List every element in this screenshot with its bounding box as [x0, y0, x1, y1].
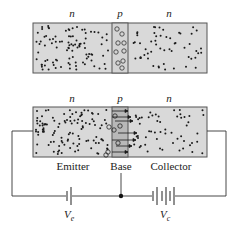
electron-dot — [53, 141, 55, 143]
transistor-diagram: n p n n p n Emitter Base Collector — [0, 0, 238, 225]
collector-label: Collector — [151, 160, 192, 172]
electron-dot — [39, 120, 41, 122]
electron-dot — [154, 132, 156, 134]
electron-dot — [144, 144, 146, 146]
electron-dot — [52, 62, 54, 64]
electron-dot — [154, 26, 156, 28]
electron-dot — [72, 45, 74, 47]
electron-dot — [133, 144, 135, 146]
electron-dot — [102, 139, 104, 141]
electron-dot — [151, 114, 153, 116]
electron-dot — [78, 138, 80, 140]
electron-dot — [36, 41, 38, 43]
electron-dot — [105, 68, 107, 70]
electron-dot — [53, 151, 55, 153]
junction-node — [119, 194, 123, 198]
electron-dot — [77, 149, 79, 151]
electron-dot — [88, 53, 90, 55]
electron-dot — [133, 42, 135, 44]
electron-dot — [87, 140, 89, 142]
electron-dot — [47, 25, 49, 27]
electron-dot — [36, 123, 38, 125]
electron-dot — [84, 28, 86, 30]
electron-dot — [75, 62, 77, 64]
electron-dot — [94, 31, 96, 33]
electron-dot — [42, 122, 44, 124]
electron-dot — [195, 67, 197, 69]
electron-dot — [84, 63, 86, 65]
electron-dot — [87, 110, 89, 112]
electron-dot — [136, 136, 138, 138]
electron-dot — [101, 124, 103, 126]
electron-dot — [56, 47, 58, 49]
electron-dot — [39, 125, 41, 127]
electron-dot — [48, 144, 50, 146]
electron-dot — [71, 50, 73, 52]
electron-dot — [156, 120, 158, 122]
electron-dot — [187, 121, 189, 123]
electron-dot — [159, 26, 161, 28]
electron-dot — [140, 145, 142, 147]
electron-dot — [99, 68, 101, 70]
electron-dot — [186, 124, 188, 126]
electron-dot — [196, 30, 198, 32]
electron-dot — [41, 66, 43, 68]
electron-dot — [101, 37, 103, 39]
electron-dot — [196, 132, 198, 134]
electron-dot — [55, 59, 57, 61]
electron-dot — [70, 35, 72, 37]
electron-dot — [104, 119, 106, 121]
electron-dot — [101, 43, 103, 45]
electron-dot — [179, 109, 181, 111]
electron-dot — [57, 153, 59, 155]
electron-dot — [45, 35, 47, 37]
electron-dot — [91, 59, 93, 61]
electron-dot — [78, 143, 80, 145]
electron-dot — [45, 123, 47, 125]
electron-dot — [179, 149, 181, 151]
electron-dot — [160, 131, 162, 133]
electron-dot — [81, 120, 83, 122]
electron-dot — [76, 40, 78, 42]
electron-dot — [69, 147, 71, 149]
electron-dot — [58, 150, 60, 152]
electron-dot — [85, 37, 87, 39]
electron-dot — [191, 142, 193, 144]
electron-dot — [154, 40, 156, 42]
electron-dot — [160, 35, 162, 37]
electron-dot — [191, 33, 193, 35]
electron-dot — [155, 43, 157, 45]
electron-dot — [52, 117, 54, 119]
electron-dot — [58, 145, 60, 147]
electron-dot — [44, 45, 46, 47]
electron-dot — [191, 151, 193, 153]
electron-dot — [37, 134, 39, 136]
electron-dot — [148, 116, 150, 118]
electron-dot — [164, 133, 166, 135]
electron-dot — [177, 138, 179, 140]
electron-dot — [171, 132, 173, 134]
electron-dot — [47, 109, 49, 111]
electron-dot — [67, 140, 69, 142]
electron-dot — [77, 122, 79, 124]
electron-dot — [77, 135, 79, 137]
electron-dot — [53, 64, 55, 66]
electron-dot — [71, 123, 73, 125]
electron-dot — [173, 109, 175, 111]
electron-dot — [184, 116, 186, 118]
electron-dot — [165, 36, 167, 38]
electron-dot — [90, 53, 92, 55]
electron-dot — [42, 131, 44, 133]
electron-dot — [83, 42, 85, 44]
emitter-battery-icon — [67, 187, 71, 205]
electron-dot — [41, 115, 43, 117]
electron-dot — [35, 152, 37, 154]
electron-dot — [158, 66, 160, 68]
electron-dot — [184, 47, 186, 49]
electron-dot — [161, 149, 163, 151]
electron-dot — [139, 123, 141, 125]
electron-dot — [54, 130, 56, 132]
electron-dot — [137, 137, 139, 139]
electron-dot — [82, 126, 84, 128]
electron-dot — [61, 152, 63, 154]
